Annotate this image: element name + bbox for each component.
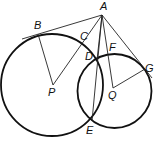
- geometry-diagram: A B C D F G P Q E: [0, 0, 156, 141]
- label-b: B: [34, 19, 41, 31]
- label-a: A: [99, 0, 107, 12]
- label-g: G: [145, 62, 154, 74]
- label-q: Q: [108, 89, 117, 101]
- diagram-canvas: A B C D F G P Q E: [0, 0, 156, 141]
- label-d: D: [85, 50, 93, 62]
- segment-qg: [113, 69, 145, 88]
- label-f: F: [109, 41, 117, 53]
- label-e: E: [86, 124, 94, 136]
- label-p: P: [48, 86, 56, 98]
- segment-ap: [53, 15, 102, 85]
- segment-bp: [38, 34, 53, 85]
- label-c: C: [80, 30, 88, 42]
